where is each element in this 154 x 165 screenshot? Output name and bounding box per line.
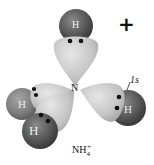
hydrogen-label-top: H [72, 19, 79, 30]
electron-dot [115, 106, 120, 111]
electron-dot [32, 87, 36, 91]
orbital-1s-label: 1s [130, 74, 139, 85]
orbital-lobe-right [80, 83, 125, 122]
electron-dot [68, 39, 73, 44]
orbital-1s-text: 1s [130, 74, 139, 85]
electron-dot [46, 119, 51, 124]
formula-subscript: 4 [86, 150, 90, 158]
electron-dot [34, 93, 38, 97]
electron-dot [79, 39, 84, 44]
electron-dot [39, 113, 44, 118]
formula-base: NH [72, 144, 86, 155]
hydrogen-left-lower [22, 113, 58, 149]
nitrogen-label: N [71, 82, 78, 93]
electron-dot [117, 95, 122, 100]
charge-plus-sign: + [118, 12, 135, 36]
hydrogen-label-right: H [124, 103, 132, 115]
hydrogen-label-left-upper: H [18, 98, 26, 110]
formula-superscript: + [87, 143, 91, 151]
formula-label: NH4+ [72, 143, 91, 158]
orbital-lobe-top [54, 37, 98, 87]
hydrogen-label-left-lower: H [29, 123, 38, 139]
